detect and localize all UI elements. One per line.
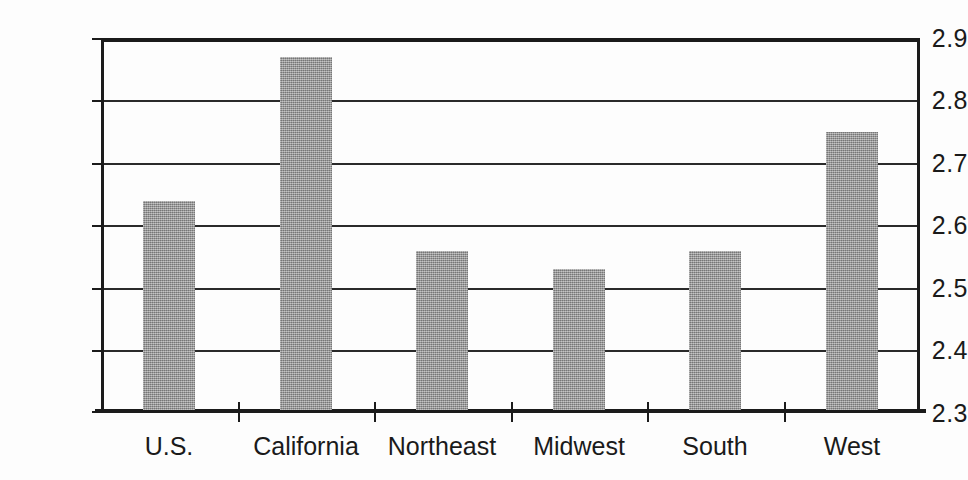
x-axis-tick — [784, 402, 786, 422]
x-axis-tick — [238, 402, 240, 422]
bar-northeast[interactable] — [416, 251, 468, 411]
bar-california[interactable] — [280, 57, 332, 410]
bar-band — [238, 38, 375, 413]
plot-area — [101, 38, 920, 413]
bar-chart-figure: 2.9 2.8 2.7 2.6 2.5 2.4 2.3 — [0, 0, 968, 480]
y-axis-tick — [92, 38, 101, 40]
x-axis-tick — [647, 402, 649, 422]
bar-band — [647, 38, 784, 413]
bar-midwest[interactable] — [553, 269, 605, 410]
bar-band — [374, 38, 511, 413]
y-axis-tick — [92, 163, 101, 165]
y-axis-tick — [92, 350, 101, 352]
x-axis-label-west: West — [824, 432, 881, 461]
x-axis-label-california: California — [253, 432, 359, 461]
bar-band — [511, 38, 648, 413]
bar-band — [784, 38, 921, 413]
x-axis-label-northeast: Northeast — [388, 432, 496, 461]
bar-band — [101, 38, 238, 413]
bar-west[interactable] — [826, 132, 878, 410]
x-axis-label-us: U.S. — [145, 432, 194, 461]
x-axis-label-south: South — [682, 432, 747, 461]
x-axis-tick — [511, 402, 513, 422]
x-axis-label-midwest: Midwest — [533, 432, 625, 461]
bar-us[interactable] — [143, 201, 195, 411]
x-axis-tick — [374, 402, 376, 422]
y-axis-tick — [92, 100, 101, 102]
y-axis-tick — [92, 288, 101, 290]
y-axis-tick — [92, 225, 101, 227]
bar-south[interactable] — [689, 251, 741, 411]
